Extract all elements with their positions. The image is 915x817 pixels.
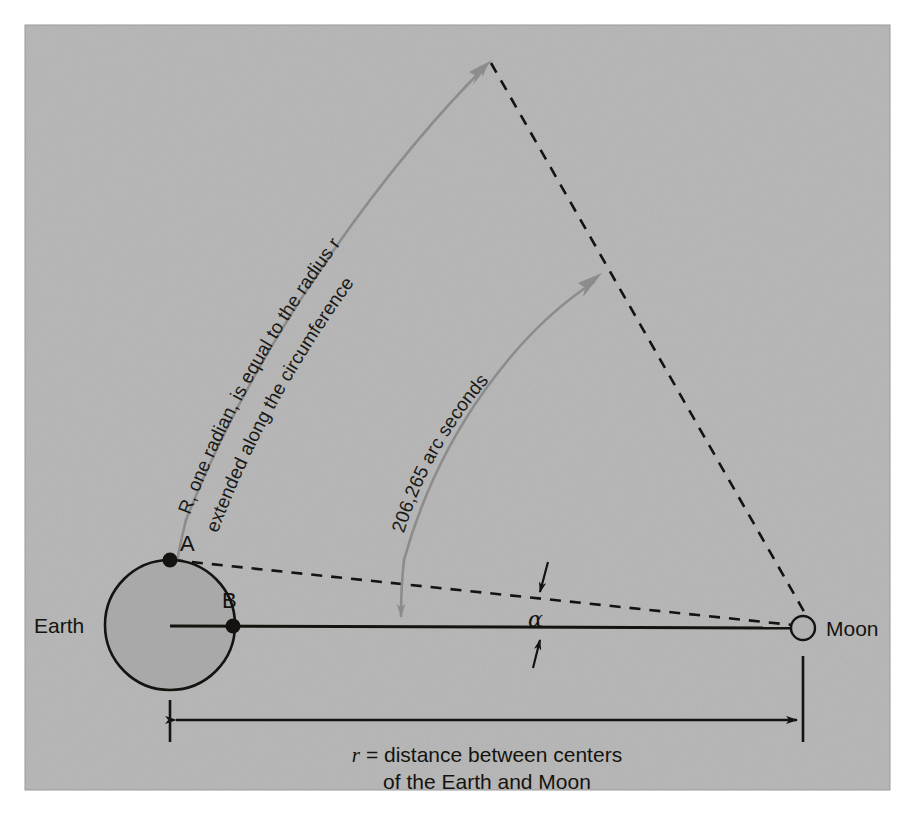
moon-body xyxy=(791,616,815,640)
diagram-canvas: Earth Moon A B α R, one radian, is equal… xyxy=(0,0,915,817)
earth-label: Earth xyxy=(34,614,84,637)
caption-line-2: of the Earth and Moon xyxy=(383,770,591,793)
point-b-dot xyxy=(226,619,241,634)
alpha-label: α xyxy=(528,607,543,632)
caption-line-1: r = distance between centers xyxy=(352,743,622,767)
point-b-label: B xyxy=(222,588,237,613)
moon-label: Moon xyxy=(826,617,879,640)
point-a-dot xyxy=(163,553,178,568)
point-a-label: A xyxy=(180,531,195,556)
figure-root: Earth Moon A B α R, one radian, is equal… xyxy=(0,0,915,817)
earth-moon-baseline xyxy=(170,626,800,628)
caption-line-1-rest: = distance between centers xyxy=(360,743,622,766)
